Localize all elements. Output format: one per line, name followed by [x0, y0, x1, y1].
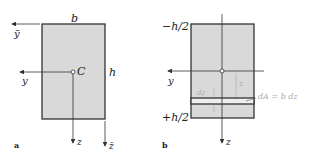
panel-b-label: b — [162, 140, 168, 150]
y-label-a: y — [21, 75, 28, 86]
z-bar-label: z̄ — [108, 141, 114, 151]
z-label-a: z — [76, 137, 82, 147]
panel-b: z y −h/2 +h/2 z dz dA = b dz b — [162, 14, 298, 150]
dz-label: dz — [197, 89, 205, 97]
top-coordinate-label: −h/2 — [162, 20, 189, 33]
centroid-marker-b — [220, 69, 224, 73]
height-label: h — [109, 66, 116, 79]
z-distance-label: z — [238, 79, 244, 88]
differential-strip — [191, 98, 254, 104]
bottom-coordinate-label: +h/2 — [162, 111, 189, 124]
cross-section-diagram: ȳ b y z C h z̄ a z y −h/2 +h/2 z — [0, 0, 314, 158]
width-label: b — [71, 12, 78, 25]
centroid-marker — [71, 70, 75, 74]
z-label-b: z — [225, 137, 231, 147]
panel-a: ȳ b y z C h z̄ a — [12, 12, 116, 151]
dA-label: dA = b dz — [258, 92, 298, 101]
y-label-b: y — [167, 75, 174, 86]
panel-a-label: a — [14, 140, 19, 150]
centroid-label: C — [77, 65, 86, 78]
y-bar-label: ȳ — [13, 28, 20, 39]
